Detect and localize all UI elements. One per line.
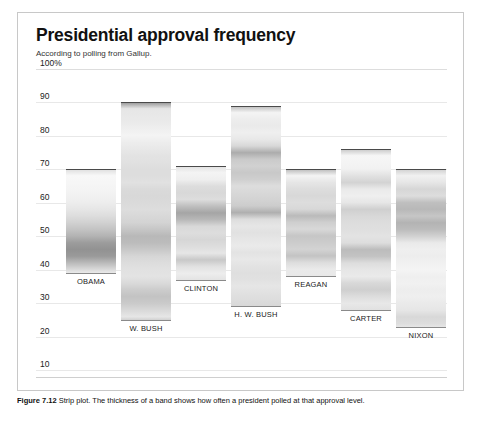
density-column — [66, 169, 116, 273]
gridline-10 — [36, 370, 447, 371]
caption-label: Figure 7.12 — [17, 396, 57, 405]
axis-bottom-rule — [36, 377, 447, 378]
column-max-cap — [396, 169, 446, 170]
y-axis-tick-label: 20 — [40, 326, 49, 336]
category-label-w-bush: W. BUSH — [109, 324, 183, 333]
category-label-carter: CARTER — [329, 314, 403, 323]
caption-text: Strip plot. The thickness of a band show… — [59, 396, 365, 405]
y-axis-tick-label: 70 — [40, 158, 49, 168]
gridline-100 — [36, 69, 447, 70]
y-axis-tick-label: 40 — [40, 259, 49, 269]
category-label-nixon: NIXON — [384, 331, 458, 340]
y-axis-tick-label: 60 — [40, 192, 49, 202]
category-label-obama: OBAMA — [54, 277, 128, 286]
column-min-cap — [231, 306, 281, 307]
y-axis-tick-label: 30 — [40, 292, 49, 302]
y-axis-tick-label: 10 — [40, 359, 49, 369]
column-max-cap — [286, 169, 336, 170]
column-max-cap — [66, 169, 116, 170]
column-min-cap — [66, 273, 116, 274]
column-min-cap — [176, 280, 226, 281]
y-axis-tick-label: 80 — [40, 125, 49, 135]
figure-caption: Figure 7.12 Strip plot. The thickness of… — [17, 396, 464, 421]
category-label-clinton: CLINTON — [164, 284, 238, 293]
gridline-90 — [36, 102, 447, 103]
column-max-cap — [176, 166, 226, 167]
column-min-cap — [396, 327, 446, 328]
y-axis-tick-label: 50 — [40, 225, 49, 235]
figure-container: Presidential approval frequency Accordin… — [0, 0, 480, 421]
plot-area: 100%908070605040302010OBAMAW. BUSHCLINTO… — [18, 13, 465, 392]
category-label-h-w-bush: H. W. BUSH — [219, 310, 293, 319]
chart-card: Presidential approval frequency Accordin… — [17, 12, 464, 391]
density-column — [231, 106, 281, 307]
density-column — [341, 149, 391, 310]
column-min-cap — [286, 276, 336, 277]
column-max-cap — [231, 106, 281, 107]
density-column — [396, 169, 446, 326]
column-min-cap — [121, 320, 171, 321]
density-column — [286, 169, 336, 276]
density-column — [176, 166, 226, 280]
category-label-reagan: REAGAN — [274, 280, 348, 289]
column-max-cap — [341, 149, 391, 150]
y-axis-tick-label: 90 — [40, 91, 49, 101]
column-max-cap — [121, 102, 171, 103]
column-min-cap — [341, 310, 391, 311]
y-axis-tick-label: 100% — [40, 58, 62, 68]
